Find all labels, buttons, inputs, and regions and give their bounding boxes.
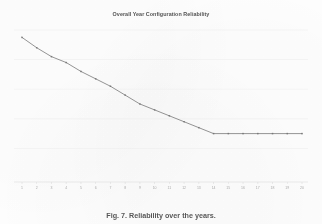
figure-container: Overall Year Configuration Reliability 1…: [0, 0, 322, 224]
x-tick-label: 16: [241, 186, 245, 190]
x-tick-label: 7: [109, 186, 111, 190]
line-chart-svg: [14, 26, 308, 184]
data-series-line: [22, 37, 302, 133]
plot-area: [14, 26, 308, 184]
data-point-markers-group: [21, 37, 303, 135]
x-tick-label: 19: [285, 186, 289, 190]
chart-title: Overall Year Configuration Reliability: [0, 11, 322, 17]
x-tick-label: 2: [36, 186, 38, 190]
x-tick-label: 9: [139, 186, 141, 190]
gridlines-group: [14, 30, 308, 148]
x-tick-label: 20: [300, 186, 304, 190]
figure-caption: Fig. 7. Reliability over the years.: [0, 211, 322, 220]
x-tick-label: 18: [271, 186, 275, 190]
x-tick-marks-group: [22, 182, 302, 184]
x-tick-label: 17: [256, 186, 260, 190]
x-tick-label: 15: [226, 186, 230, 190]
x-tick-label: 8: [124, 186, 126, 190]
x-tick-label: 3: [50, 186, 52, 190]
x-axis-tick-labels: 1234567891011121314151617181920: [14, 186, 308, 195]
x-tick-label: 14: [212, 186, 216, 190]
x-tick-label: 1: [21, 186, 23, 190]
x-tick-label: 13: [197, 186, 201, 190]
x-tick-label: 11: [168, 186, 172, 190]
x-tick-label: 4: [65, 186, 67, 190]
x-tick-label: 12: [182, 186, 186, 190]
x-tick-label: 10: [153, 186, 157, 190]
x-tick-label: 6: [95, 186, 97, 190]
x-tick-label: 5: [80, 186, 82, 190]
